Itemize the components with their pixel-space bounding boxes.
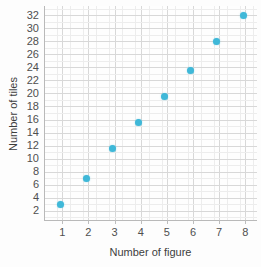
x-tick-mark bbox=[88, 220, 89, 224]
y-tick-label: 6 bbox=[0, 179, 39, 190]
x-tick-label: 7 bbox=[207, 226, 231, 238]
x-tick-mark bbox=[193, 220, 194, 224]
y-tick-label: 28 bbox=[0, 36, 39, 47]
x-tick-mark bbox=[245, 220, 246, 224]
x-tick-mark bbox=[62, 220, 63, 224]
y-tick-label: 14 bbox=[0, 127, 39, 138]
x-tick-label: 4 bbox=[129, 226, 153, 238]
y-tick-label: 20 bbox=[0, 88, 39, 99]
x-tick-mark bbox=[115, 220, 116, 224]
x-tick-label: 6 bbox=[181, 226, 205, 238]
y-tick-label: 32 bbox=[0, 10, 39, 21]
y-tick-label: 24 bbox=[0, 62, 39, 73]
y-tick-label: 2 bbox=[0, 205, 39, 216]
x-tick-mark bbox=[167, 220, 168, 224]
scatter-chart: 2468101214161820222426283032 12345678 Nu… bbox=[0, 0, 261, 267]
y-tick-label: 16 bbox=[0, 114, 39, 125]
y-tick-label: 30 bbox=[0, 23, 39, 34]
x-axis-title: Number of figure bbox=[44, 246, 257, 258]
x-tick-label: 8 bbox=[233, 226, 257, 238]
y-tick-label: 26 bbox=[0, 49, 39, 60]
x-tick-label: 5 bbox=[155, 226, 179, 238]
y-axis-title: Number of tiles bbox=[7, 49, 19, 179]
x-tick-mark bbox=[219, 220, 220, 224]
y-tick-label: 18 bbox=[0, 101, 39, 112]
y-tick-label: 22 bbox=[0, 75, 39, 86]
x-tick-label: 1 bbox=[50, 226, 74, 238]
y-tick-label: 12 bbox=[0, 140, 39, 151]
y-tick-label: 4 bbox=[0, 192, 39, 203]
y-tick-label: 8 bbox=[0, 166, 39, 177]
x-tick-mark bbox=[141, 220, 142, 224]
y-tick-label: 10 bbox=[0, 153, 39, 164]
x-tick-label: 3 bbox=[103, 226, 127, 238]
x-tick-label: 2 bbox=[76, 226, 100, 238]
